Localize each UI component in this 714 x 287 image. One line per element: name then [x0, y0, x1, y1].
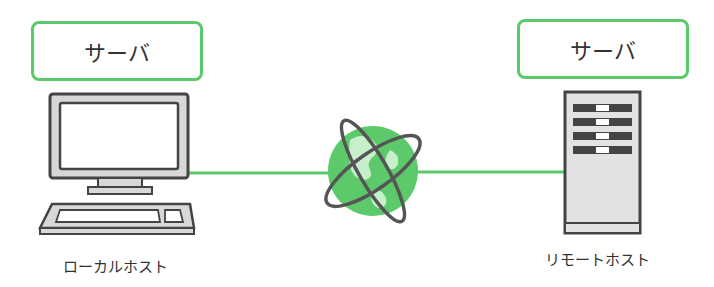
right-server-tag: サーバ	[517, 19, 689, 79]
right-server-tag-label: サーバ	[570, 33, 636, 65]
desktop-computer-icon	[40, 94, 194, 234]
remote-host-caption: リモートホスト	[527, 248, 667, 269]
left-server-tag: サーバ	[31, 21, 203, 81]
server-tower-icon	[565, 92, 640, 233]
local-host-caption: ローカルホスト	[40, 255, 190, 276]
left-server-tag-label: サーバ	[84, 35, 150, 67]
globe-icon	[317, 114, 429, 228]
